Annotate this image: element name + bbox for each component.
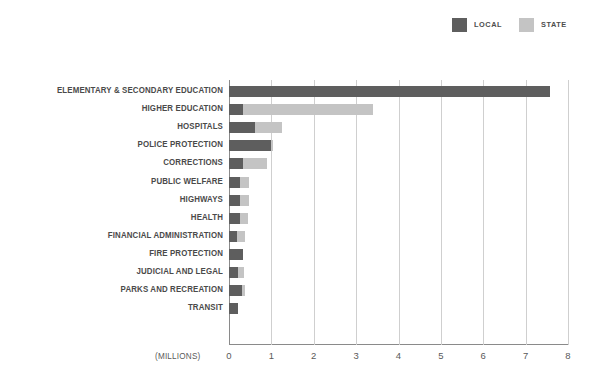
x-tick-7: 7 xyxy=(514,350,538,362)
chart-legend: LOCAL STATE xyxy=(452,18,569,32)
bar-segment-local xyxy=(229,140,271,151)
bar-segment-local xyxy=(229,303,238,314)
gridline-1 xyxy=(271,80,272,345)
plot-area xyxy=(229,80,568,345)
gridline-5 xyxy=(441,80,442,345)
bar-row xyxy=(229,177,249,188)
gridline-6 xyxy=(483,80,484,345)
category-axis-labels: ELEMENTARY & SECONDARY EDUCATIONHIGHER E… xyxy=(20,80,223,345)
bar-segment-local xyxy=(229,249,243,260)
gridline-7 xyxy=(526,80,527,345)
bar-row xyxy=(229,213,248,224)
stacked-bar-chart: LOCAL STATE ELEMENTARY & SECONDARY EDUCA… xyxy=(0,0,599,387)
x-tick-6: 6 xyxy=(471,350,495,362)
bar-segment-local xyxy=(229,158,243,169)
category-label: PARKS AND RECREATION xyxy=(35,284,223,295)
x-tick-5: 5 xyxy=(429,350,453,362)
bar-row xyxy=(229,285,245,296)
bar-segment-state xyxy=(238,267,244,278)
gridline-3 xyxy=(356,80,357,345)
gridline-2 xyxy=(314,80,315,345)
category-label: HIGHER EDUCATION xyxy=(35,103,223,114)
bar-segment-local xyxy=(229,104,243,115)
x-tick-2: 2 xyxy=(302,350,326,362)
category-label: CORRECTIONS xyxy=(35,157,223,168)
bar-row xyxy=(229,158,267,169)
bar-row xyxy=(229,122,282,133)
x-tick-4: 4 xyxy=(387,350,411,362)
bar-segment-state xyxy=(237,231,244,242)
category-label: JUDICIAL AND LEGAL xyxy=(35,266,223,277)
legend-item-local: LOCAL xyxy=(452,18,505,32)
bar-row xyxy=(229,303,238,314)
bar-row xyxy=(229,86,550,97)
bar-segment-local xyxy=(229,231,237,242)
gridline-8 xyxy=(568,80,569,345)
category-label: ELEMENTARY & SECONDARY EDUCATION xyxy=(35,85,223,96)
bar-segment-state xyxy=(243,104,372,115)
x-tick-3: 3 xyxy=(344,350,368,362)
legend-swatch-state xyxy=(519,18,534,32)
category-label: PUBLIC WELFARE xyxy=(35,176,223,187)
bar-segment-state xyxy=(271,140,273,151)
x-tick-1: 1 xyxy=(259,350,283,362)
legend-swatch-local xyxy=(452,18,467,32)
category-label: TRANSIT xyxy=(35,302,223,313)
bar-row xyxy=(229,195,249,206)
bar-segment-local xyxy=(229,285,242,296)
bar-segment-state xyxy=(240,177,249,188)
category-label: HIGHWAYS xyxy=(35,194,223,205)
bar-segment-local xyxy=(229,267,238,278)
x-tick-8: 8 xyxy=(556,350,580,362)
bar-row xyxy=(229,249,243,260)
bar-row xyxy=(229,267,244,278)
category-label: HEALTH xyxy=(35,212,223,223)
bar-segment-local xyxy=(229,213,240,224)
category-label: FIRE PROTECTION xyxy=(35,248,223,259)
bar-segment-state xyxy=(242,285,245,296)
bar-segment-local xyxy=(229,195,240,206)
bar-segment-local xyxy=(229,122,255,133)
category-label: FINANCIAL ADMINISTRATION xyxy=(35,230,223,241)
bar-segment-local xyxy=(229,177,240,188)
bar-segment-state xyxy=(243,158,267,169)
x-tick-0: 0 xyxy=(217,350,241,362)
category-label: HOSPITALS xyxy=(35,121,223,132)
bar-segment-state xyxy=(255,122,282,133)
bar-segment-state xyxy=(240,195,249,206)
legend-label-local: LOCAL xyxy=(474,21,502,29)
legend-item-state: STATE xyxy=(519,18,569,32)
bar-row xyxy=(229,231,245,242)
gridline-4 xyxy=(399,80,400,345)
bar-row xyxy=(229,104,373,115)
bar-segment-local xyxy=(229,86,550,97)
x-axis-units-label: (MILLIONS) xyxy=(155,350,200,362)
legend-label-state: STATE xyxy=(541,21,567,29)
category-label: POLICE PROTECTION xyxy=(35,139,223,150)
bar-row xyxy=(229,140,273,151)
bar-segment-state xyxy=(240,213,248,224)
